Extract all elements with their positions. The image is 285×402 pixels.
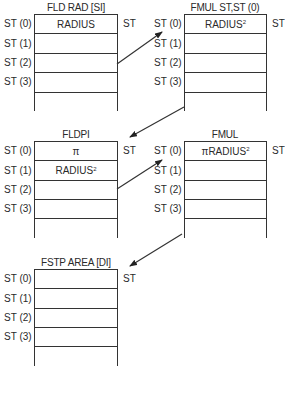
arrow-3-icon (117, 160, 162, 189)
arrow-1-icon (117, 32, 162, 64)
flow-arrows (0, 0, 285, 402)
arrow-2-icon (130, 107, 184, 137)
arrow-4-icon (130, 234, 182, 266)
